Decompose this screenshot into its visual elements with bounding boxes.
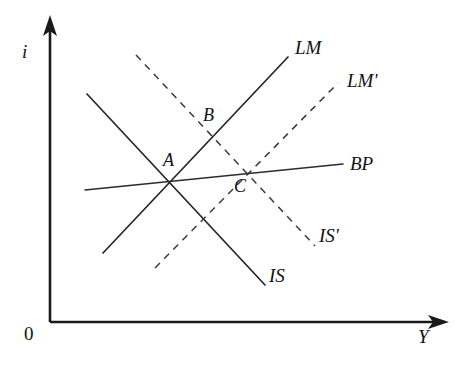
curve-label-lm-shift: LM' — [347, 71, 377, 90]
point-label-c: C — [234, 177, 246, 195]
x-axis-label: Y — [418, 327, 429, 346]
caption-fragment — [44, 368, 224, 377]
point-label-b: B — [203, 106, 214, 124]
curve-label-is-shift: IS' — [319, 226, 339, 245]
curve-bp — [85, 164, 343, 190]
curve-label-bp: BP — [350, 154, 373, 173]
curve-label-is: IS — [269, 266, 285, 285]
curve-lm-shift — [155, 83, 338, 268]
curve-lm — [103, 57, 288, 253]
origin-label: 0 — [24, 324, 34, 343]
is-lm-bp-figure: i Y 0 LM LM' BP IS IS' A B C — [0, 0, 469, 377]
y-axis-label: i — [22, 42, 27, 61]
curve-label-lm: LM — [295, 38, 321, 57]
point-label-a: A — [163, 151, 174, 169]
